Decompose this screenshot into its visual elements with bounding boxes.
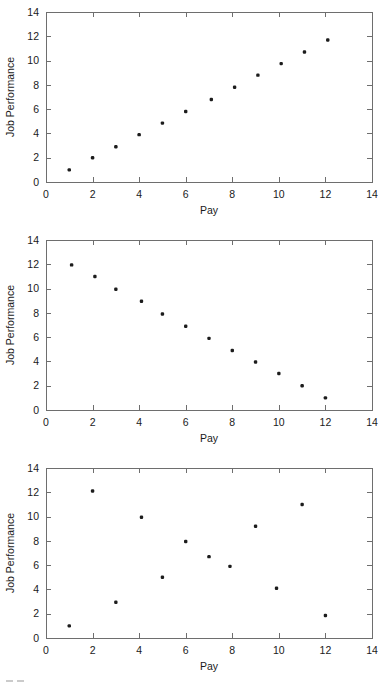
x-tick-label: 6 xyxy=(183,416,189,428)
data-point xyxy=(324,396,327,399)
data-point xyxy=(161,576,164,579)
data-point xyxy=(140,515,143,518)
x-tick-label: 12 xyxy=(320,416,332,428)
data-point xyxy=(277,372,280,375)
chart-canvas: 0246810121402468101214PayJob Performance xyxy=(0,228,386,450)
data-point xyxy=(161,312,164,315)
y-tick-label: 6 xyxy=(33,103,39,115)
y-tick-label: 4 xyxy=(33,355,39,367)
data-point xyxy=(114,600,117,603)
data-point xyxy=(254,525,257,528)
data-point xyxy=(228,565,231,568)
y-axis-title: Job Performance xyxy=(4,513,16,593)
x-axis-title: Pay xyxy=(200,204,219,216)
data-point xyxy=(184,110,187,113)
x-tick-label: 2 xyxy=(90,416,96,428)
y-tick-label: 14 xyxy=(27,6,39,18)
y-tick-label: 2 xyxy=(33,151,39,163)
plot-frame xyxy=(47,13,373,183)
chart-canvas: 0246810121402468101214PayJob Performance xyxy=(0,0,386,222)
y-tick-label: 10 xyxy=(27,510,39,522)
x-tick-label: 2 xyxy=(90,644,96,656)
data-point xyxy=(231,349,234,352)
data-point xyxy=(207,555,210,558)
scan-artifact xyxy=(6,679,28,683)
data-point xyxy=(256,73,259,76)
data-point xyxy=(93,275,96,278)
data-point xyxy=(161,121,164,124)
data-point xyxy=(300,503,303,506)
chart-canvas: 0246810121402468101214PayJob Performance xyxy=(0,456,386,678)
data-point xyxy=(91,156,94,159)
x-axis-title: Pay xyxy=(200,660,219,672)
y-tick-label: 4 xyxy=(33,127,39,139)
x-axis-title: Pay xyxy=(200,432,219,444)
x-tick-label: 4 xyxy=(136,188,142,200)
x-tick-label: 14 xyxy=(366,416,378,428)
y-tick-label: 6 xyxy=(33,331,39,343)
data-point xyxy=(279,62,282,65)
y-tick-label: 4 xyxy=(33,583,39,595)
data-point xyxy=(326,38,329,41)
data-point xyxy=(140,300,143,303)
y-tick-label: 10 xyxy=(27,282,39,294)
y-tick-label: 0 xyxy=(33,404,39,416)
x-tick-label: 14 xyxy=(366,188,378,200)
y-tick-label: 8 xyxy=(33,79,39,91)
y-tick-label: 6 xyxy=(33,559,39,571)
data-point xyxy=(254,360,257,363)
x-tick-label: 8 xyxy=(229,644,235,656)
y-tick-label: 8 xyxy=(33,535,39,547)
plot-frame xyxy=(47,241,373,411)
y-tick-label: 14 xyxy=(27,462,39,474)
x-tick-label: 6 xyxy=(183,644,189,656)
data-point xyxy=(68,168,71,171)
x-tick-label: 4 xyxy=(136,644,142,656)
y-axis-title: Job Performance xyxy=(4,285,16,365)
y-tick-label: 10 xyxy=(27,54,39,66)
data-point xyxy=(114,287,117,290)
x-tick-label: 0 xyxy=(43,416,49,428)
data-point xyxy=(114,145,117,148)
y-tick-label: 0 xyxy=(33,632,39,644)
y-axis-title: Job Performance xyxy=(4,57,16,137)
x-tick-label: 10 xyxy=(273,644,285,656)
data-point xyxy=(303,50,306,53)
data-point xyxy=(184,325,187,328)
x-tick-label: 2 xyxy=(90,188,96,200)
data-point xyxy=(275,587,278,590)
x-tick-label: 0 xyxy=(43,188,49,200)
plot-frame xyxy=(47,469,373,639)
data-point xyxy=(300,384,303,387)
y-tick-label: 8 xyxy=(33,307,39,319)
scatter-chart-none: 0246810121402468101214PayJob Performance xyxy=(0,456,386,678)
y-tick-label: 0 xyxy=(33,176,39,188)
x-tick-label: 0 xyxy=(43,644,49,656)
data-point xyxy=(210,98,213,101)
data-point xyxy=(207,337,210,340)
x-tick-label: 12 xyxy=(320,644,332,656)
data-point xyxy=(184,540,187,543)
data-point xyxy=(137,133,140,136)
y-tick-label: 14 xyxy=(27,234,39,246)
x-tick-label: 4 xyxy=(136,416,142,428)
x-tick-label: 8 xyxy=(229,416,235,428)
y-tick-label: 12 xyxy=(27,30,39,42)
x-tick-label: 12 xyxy=(320,188,332,200)
data-point xyxy=(68,624,71,627)
x-tick-label: 14 xyxy=(366,644,378,656)
data-point xyxy=(91,489,94,492)
x-tick-label: 10 xyxy=(273,188,285,200)
y-tick-label: 2 xyxy=(33,607,39,619)
y-tick-label: 2 xyxy=(33,379,39,391)
y-tick-label: 12 xyxy=(27,486,39,498)
scatter-chart-positive: 0246810121402468101214PayJob Performance xyxy=(0,0,386,222)
y-tick-label: 12 xyxy=(27,258,39,270)
x-tick-label: 10 xyxy=(273,416,285,428)
figure-page: 0246810121402468101214PayJob Performance… xyxy=(0,0,386,690)
scatter-chart-negative: 0246810121402468101214PayJob Performance xyxy=(0,228,386,450)
data-point xyxy=(324,614,327,617)
x-tick-label: 6 xyxy=(183,188,189,200)
data-point xyxy=(70,263,73,266)
x-tick-label: 8 xyxy=(229,188,235,200)
